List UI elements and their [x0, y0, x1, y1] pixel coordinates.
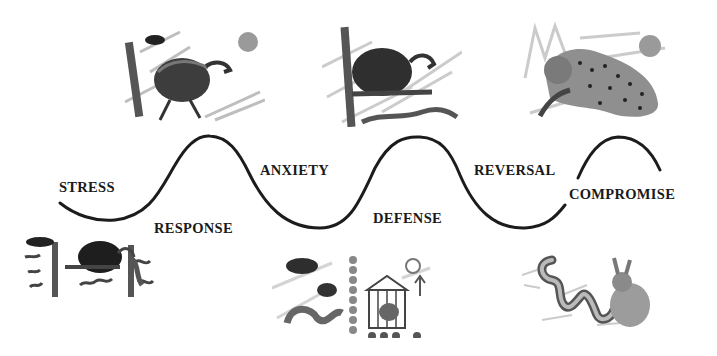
snake-rabbit-illustration: [522, 250, 657, 335]
stage-label-response: RESPONSE: [154, 220, 233, 237]
stage-label-reversal: REVERSAL: [474, 162, 555, 179]
stress-response-diagram: STRESS RESPONSE ANXIETY DEFENSE REVERSAL…: [0, 0, 717, 356]
stage-label-anxiety: ANXIETY: [260, 162, 329, 179]
vulture-posts-illustration: [20, 237, 160, 297]
vulture-illustration: [120, 22, 265, 122]
stage-label-compromise: COMPROMISE: [569, 186, 675, 203]
caged-bird-illustration: [272, 248, 432, 338]
leopard-illustration: [520, 18, 670, 123]
stage-label-stress: STRESS: [59, 179, 115, 196]
stage-label-defense: DEFENSE: [373, 210, 442, 227]
vulture-branch-illustration: [322, 22, 462, 127]
